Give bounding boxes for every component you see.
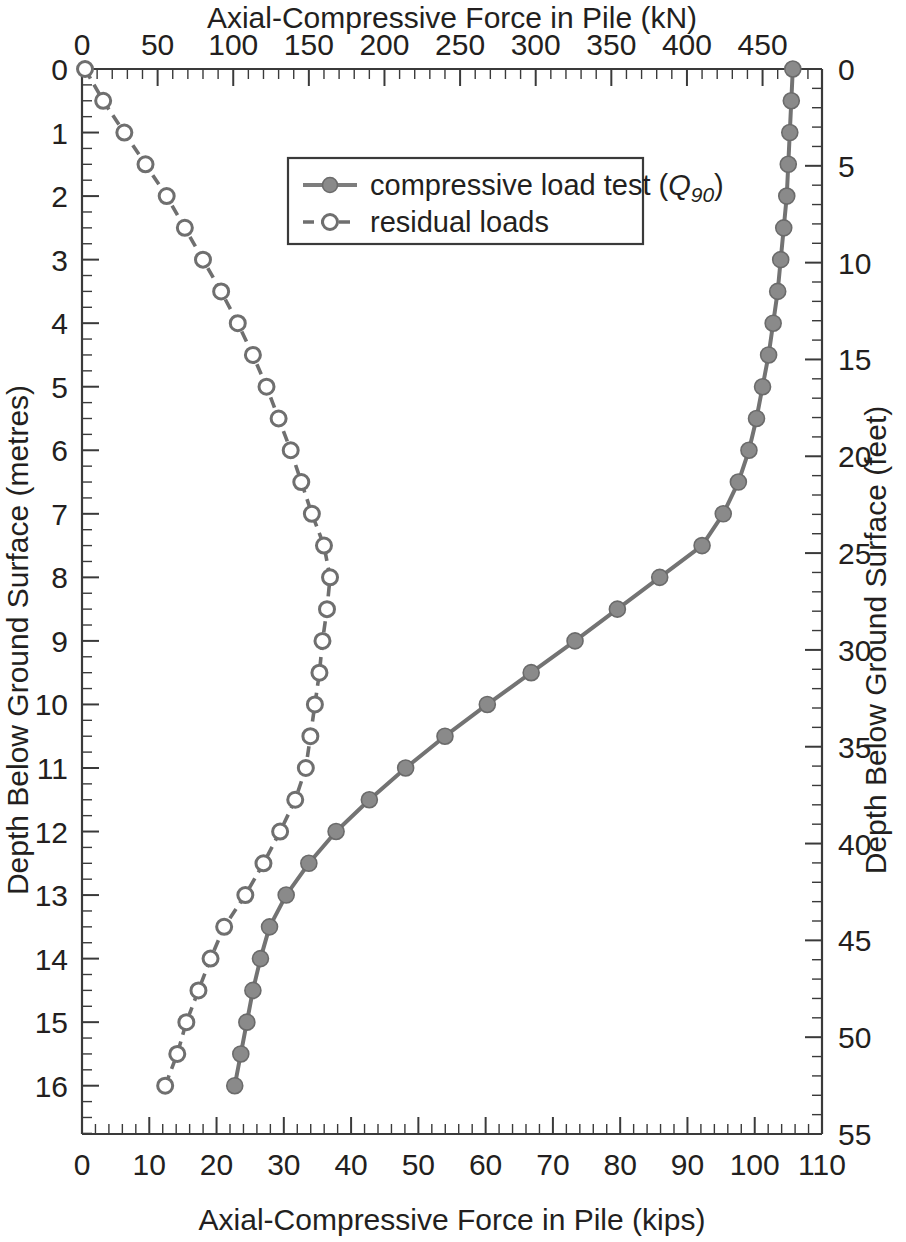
- data-point: [203, 951, 218, 966]
- left-tick-label-1: 1: [51, 117, 68, 150]
- data-point: [288, 792, 303, 807]
- right-tick-label-0: 0: [838, 53, 855, 86]
- data-point: [761, 347, 777, 363]
- legend-label-residual: residual loads: [370, 206, 549, 238]
- data-point: [783, 93, 799, 109]
- data-point: [307, 697, 322, 712]
- data-point: [315, 633, 330, 648]
- data-point: [479, 696, 495, 712]
- data-point: [252, 951, 268, 967]
- data-point: [749, 410, 765, 426]
- data-point: [256, 856, 271, 871]
- bottom-tick-label-100: 100: [730, 1148, 780, 1181]
- data-point: [741, 442, 757, 458]
- top-tick-label-0: 0: [74, 28, 91, 61]
- right-tick-label-35: 35: [838, 731, 871, 764]
- right-tick-label-55: 55: [838, 1118, 871, 1151]
- bottom-tick-label-30: 30: [267, 1148, 300, 1181]
- left-tick-label-6: 6: [51, 434, 68, 467]
- data-point: [523, 665, 539, 681]
- top-tick-label-250: 250: [435, 28, 485, 61]
- data-point: [159, 189, 174, 204]
- left-tick-label-5: 5: [51, 371, 68, 404]
- bottom-tick-label-60: 60: [469, 1148, 502, 1181]
- data-point: [191, 983, 206, 998]
- data-point: [765, 315, 781, 331]
- data-point: [117, 125, 132, 140]
- data-point: [773, 252, 789, 268]
- data-point: [694, 538, 710, 554]
- data-point: [177, 220, 192, 235]
- data-point: [138, 157, 153, 172]
- data-point: [294, 475, 309, 490]
- data-point: [214, 284, 229, 299]
- top-tick-label-100: 100: [208, 28, 258, 61]
- data-point: [170, 1046, 185, 1061]
- bottom-tick-label-110: 110: [798, 1148, 846, 1181]
- bottom-tick-label-20: 20: [200, 1148, 233, 1181]
- left-tick-label-3: 3: [51, 244, 68, 277]
- data-point: [271, 411, 286, 426]
- left-tick-label-13: 13: [35, 879, 68, 912]
- data-point: [755, 379, 771, 395]
- data-point: [179, 1015, 194, 1030]
- data-point: [320, 602, 335, 617]
- right-tick-label-5: 5: [838, 150, 855, 183]
- data-point: [230, 316, 245, 331]
- data-point: [278, 887, 294, 903]
- data-point: [273, 824, 288, 839]
- left-tick-label-7: 7: [51, 498, 68, 531]
- bottom-tick-label-40: 40: [334, 1148, 367, 1181]
- data-point: [782, 125, 798, 141]
- data-point: [776, 220, 792, 236]
- bottom-tick-label-70: 70: [536, 1148, 569, 1181]
- data-point: [437, 728, 453, 744]
- left-tick-label-4: 4: [51, 307, 68, 340]
- data-point: [283, 443, 298, 458]
- data-point: [259, 379, 274, 394]
- data-point: [96, 93, 111, 108]
- data-point: [730, 474, 746, 490]
- data-point: [239, 1014, 255, 1030]
- bottom-axis-title: Axial-Compressive Force in Pile (kips): [199, 1203, 706, 1236]
- data-point: [323, 570, 338, 585]
- chart-figure: Axial-Compressive Force in Pile (kN) Axi…: [0, 0, 906, 1242]
- data-point: [609, 601, 625, 617]
- left-axis-title: Depth Below Ground Surface (metres): [1, 385, 34, 895]
- data-point: [245, 347, 260, 362]
- data-point: [398, 760, 414, 776]
- bottom-tick-label-50: 50: [402, 1148, 435, 1181]
- right-tick-label-25: 25: [838, 537, 871, 570]
- data-point: [158, 1078, 173, 1093]
- legend-label-compressive: compressive load test (Q90): [370, 169, 724, 206]
- right-tick-label-15: 15: [838, 343, 871, 376]
- left-tick-label-10: 10: [35, 688, 68, 721]
- top-tick-label-150: 150: [284, 28, 334, 61]
- data-point: [715, 506, 731, 522]
- data-point: [233, 1046, 249, 1062]
- data-point: [770, 283, 786, 299]
- data-point: [195, 252, 210, 267]
- data-point: [78, 62, 93, 77]
- right-tick-label-30: 30: [838, 634, 871, 667]
- top-tick-label-50: 50: [141, 28, 174, 61]
- left-tick-label-8: 8: [51, 561, 68, 594]
- right-tick-label-10: 10: [838, 247, 871, 280]
- data-point: [361, 792, 377, 808]
- data-point: [227, 1078, 243, 1094]
- right-tick-label-45: 45: [838, 924, 871, 957]
- data-point: [328, 824, 344, 840]
- data-point: [303, 729, 318, 744]
- right-tick-label-50: 50: [838, 1021, 871, 1054]
- data-point: [652, 569, 668, 585]
- top-tick-label-400: 400: [662, 28, 712, 61]
- pile-force-depth-chart: Axial-Compressive Force in Pile (kN) Axi…: [0, 0, 906, 1242]
- data-point: [779, 188, 795, 204]
- data-point: [780, 156, 796, 172]
- data-point: [262, 919, 278, 935]
- top-tick-label-450: 450: [738, 28, 788, 61]
- top-tick-label-200: 200: [359, 28, 409, 61]
- data-point: [245, 982, 261, 998]
- data-point: [312, 665, 327, 680]
- left-tick-label-12: 12: [35, 816, 68, 849]
